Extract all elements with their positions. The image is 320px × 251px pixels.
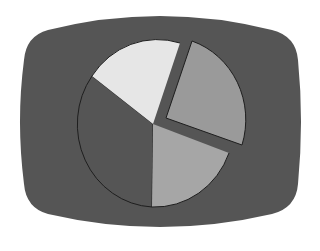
chart-svg (0, 0, 320, 251)
pie-chart-screen-icon (0, 0, 320, 251)
